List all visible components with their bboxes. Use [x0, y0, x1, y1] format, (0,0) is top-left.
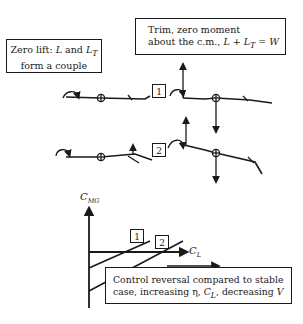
config-tag-1: 1	[152, 84, 166, 98]
config1-tail	[170, 66, 272, 130]
config2-wing	[56, 147, 152, 163]
CL-symbol: C	[204, 286, 211, 297]
x-axis-symbol: C	[189, 245, 197, 256]
x-axis-label: CL	[189, 245, 201, 259]
reversal-line2: case, increasing η,	[113, 286, 204, 297]
reversal-suffix: , decreasing	[216, 286, 277, 297]
control-reversal-annotation: Control reversal compared to stable case…	[105, 267, 292, 304]
V-symbol: V	[277, 286, 284, 297]
y-axis-subscript: MG	[88, 197, 100, 205]
curve-tag-2: 2	[155, 235, 169, 249]
y-axis-symbol: C	[80, 191, 88, 202]
y-axis-label: CMG	[80, 191, 100, 205]
curve-tag-1: 1	[130, 229, 144, 243]
config2-tail	[168, 120, 262, 180]
x-axis-subscript: L	[197, 251, 201, 259]
reversal-line1: Control reversal compared to stable	[113, 274, 291, 286]
config-tag-2: 2	[152, 143, 166, 157]
config1-wing	[63, 92, 150, 102]
